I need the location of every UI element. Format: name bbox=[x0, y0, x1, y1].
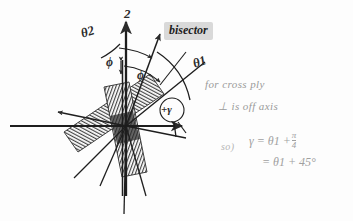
axis-2-label: 2 bbox=[124, 6, 131, 22]
sketch-page: 2 θ2 θ1 ϕ ϕ +γ bisector for cross ply ⊥ … bbox=[0, 0, 353, 221]
note-so: so) bbox=[221, 141, 234, 152]
equation-rhs: θ1 + bbox=[268, 134, 291, 148]
bisector-label: bisector bbox=[164, 22, 213, 40]
note-cross-ply: for cross ply bbox=[205, 78, 265, 90]
fraction-pi-over-4: π4 bbox=[292, 131, 297, 151]
fraction-denominator: 4 bbox=[292, 140, 297, 150]
equation-gamma-radians: γ = θ1 +π4 bbox=[249, 132, 296, 152]
note-off-axis: ⊥ is off axis bbox=[218, 100, 278, 113]
phi-upper-label: ϕ bbox=[106, 55, 113, 70]
equation-lhs: γ = bbox=[249, 134, 265, 148]
gamma-label: +γ bbox=[161, 103, 172, 115]
phi-lower-label: ϕ bbox=[137, 68, 144, 83]
angle-arc-phi-upper bbox=[119, 48, 152, 58]
equation-gamma-degrees: = θ1 + 45° bbox=[262, 155, 316, 170]
fraction-numerator: π bbox=[292, 131, 297, 140]
axis-1-tick bbox=[178, 122, 186, 133]
